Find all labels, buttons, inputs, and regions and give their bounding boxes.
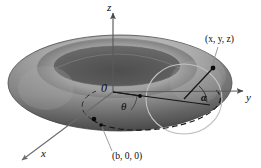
origin-label: 0 [101,82,107,94]
point-xyz-marker [211,66,216,71]
axis-label-x: x [41,148,46,159]
point-b-marker [92,117,97,122]
torus-parametrization-figure: z y x 0 θ α (x, y, z) (b, 0, 0) [0,0,261,168]
point-label-xyz: (x, y, z) [205,35,234,45]
axis-label-z: z [107,2,111,13]
angle-label-alpha: α [201,93,207,103]
axis-label-y: y [246,92,251,103]
point-label-b: (b, 0, 0) [112,152,142,162]
angle-label-theta: θ [121,101,126,112]
point-center-tube-marker [138,94,142,98]
figure-canvas [0,0,261,168]
torus-left-sheen [18,66,74,110]
point-b-secondary-marker [99,123,102,126]
